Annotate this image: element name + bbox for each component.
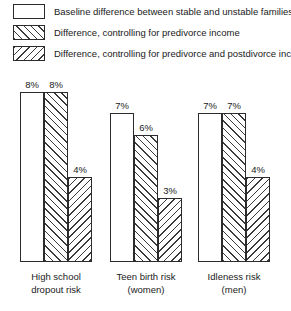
bar-segment	[44, 92, 68, 262]
category-label-line: Teen birth risk	[96, 271, 196, 284]
bar-value-label: 4%	[68, 164, 92, 175]
category-label-line: Idleness risk	[184, 271, 284, 284]
category-label-idleness-risk-men: Idleness risk (men)	[184, 271, 284, 296]
bar-chart-plot: 8% 8% 4% High school dropout risk 7% 6% …	[0, 0, 291, 311]
bar-value-label: 7%	[110, 100, 134, 111]
bar-value-label: 7%	[198, 100, 222, 111]
bar-segment	[198, 113, 222, 262]
bar-value-label: 8%	[44, 79, 68, 90]
category-label-high-school-dropout-risk: High school dropout risk	[6, 271, 106, 296]
bar-value-label: 7%	[222, 100, 246, 111]
bar-value-label: 8%	[20, 79, 44, 90]
bar-value-label: 4%	[246, 164, 270, 175]
bar-segment	[246, 177, 270, 262]
category-label-line: (men)	[184, 284, 284, 297]
bar-segment	[110, 113, 134, 262]
bar-segment	[20, 92, 44, 262]
bar-segment	[158, 198, 182, 262]
category-label-teen-birth-risk-women: Teen birth risk (women)	[96, 271, 196, 296]
bar-segment	[222, 113, 246, 262]
bar-value-label: 6%	[134, 122, 158, 133]
bar-segment	[68, 177, 92, 262]
bar-segment	[134, 135, 158, 262]
category-label-line: High school	[6, 271, 106, 284]
category-label-line: (women)	[96, 284, 196, 297]
bar-value-label: 3%	[158, 185, 182, 196]
category-label-line: dropout risk	[6, 284, 106, 297]
